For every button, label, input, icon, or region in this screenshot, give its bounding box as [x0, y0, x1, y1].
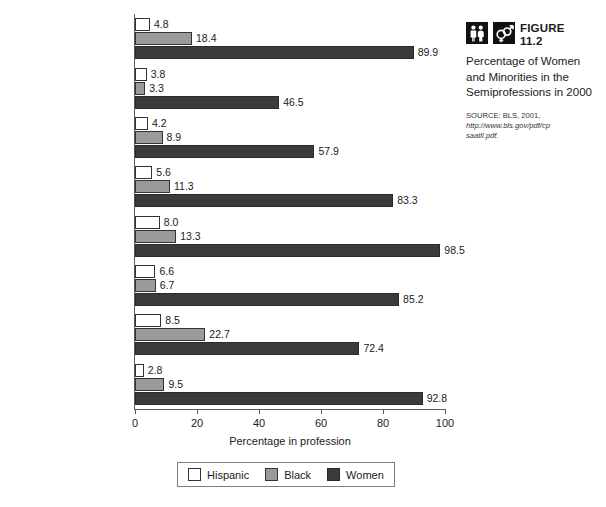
source-line-1: SOURCE: BLS, 2001,: [466, 111, 598, 121]
bar-row: 72.4: [135, 342, 445, 355]
bar-row: 2.8: [135, 364, 445, 377]
bar-black: [135, 32, 192, 45]
bar-row: 83.3: [135, 194, 445, 207]
bar-hispanic: [135, 314, 161, 327]
x-axis-title: Percentage in profession: [135, 435, 445, 447]
x-axis-tick: [321, 409, 322, 414]
bar-black: [135, 230, 176, 243]
bar-hispanic: [135, 166, 152, 179]
bar-hispanic: [135, 364, 144, 377]
x-axis-tick: [383, 409, 384, 414]
bar-row: 11.3: [135, 180, 445, 193]
bar-row: 57.9: [135, 145, 445, 158]
bar-row: 3.3: [135, 82, 445, 95]
x-axis-tick: [197, 409, 198, 414]
x-axis-tick-label: 20: [177, 416, 217, 430]
bar-value-label: 11.3: [174, 179, 194, 193]
bar-value-label: 8.9: [167, 130, 182, 144]
legend-swatch-hispanic: [188, 468, 201, 481]
bar-women: [135, 244, 440, 257]
bar-hispanic: [135, 117, 148, 130]
bar-value-label: 5.6: [156, 165, 171, 179]
bar-value-label: 22.7: [209, 327, 229, 341]
bar-women: [135, 293, 399, 306]
caption-header: FIGURE 11.2: [466, 22, 598, 47]
bar-black: [135, 279, 156, 292]
bar-value-label: 8.5: [165, 313, 180, 327]
bar-group: 2.89.592.8: [135, 364, 445, 406]
bar-women: [135, 194, 393, 207]
figure-number-block: FIGURE 11.2: [520, 22, 565, 47]
bar-black: [135, 180, 170, 193]
bar-hispanic: [135, 265, 155, 278]
bar-row: 6.6: [135, 265, 445, 278]
bar-value-label: 92.8: [427, 391, 447, 405]
bar-row: 4.2: [135, 117, 445, 130]
source-line-2: http://www.bls.gov/pdf/cp: [466, 121, 598, 131]
bar-value-label: 83.3: [397, 193, 417, 207]
bar-women: [135, 96, 279, 109]
legend-swatch-women: [327, 468, 340, 481]
gender-symbols-icon: [493, 22, 515, 44]
x-axis-line: [134, 409, 446, 410]
bar-women: [135, 46, 414, 59]
bar-value-label: 6.7: [160, 278, 175, 292]
bar-row: 8.5: [135, 314, 445, 327]
source-line-3: saatll.pdf.: [466, 131, 598, 141]
bar-value-label: 2.8: [148, 363, 163, 377]
bar-row: 98.5: [135, 244, 445, 257]
bar-women: [135, 342, 359, 355]
legend-item-black: Black: [265, 468, 311, 481]
bar-row: 89.9: [135, 46, 445, 59]
x-axis-tick: [135, 409, 136, 414]
two-people-icon: [466, 22, 488, 44]
bar-row: 3.8: [135, 68, 445, 81]
bar-row: 85.2: [135, 293, 445, 306]
bar-value-label: 3.8: [151, 67, 166, 81]
x-axis-tick-label: 0: [115, 416, 155, 430]
bar-group: 3.83.346.5: [135, 68, 445, 110]
bar-women: [135, 145, 314, 158]
figure-source: SOURCE: BLS, 2001, http://www.bls.gov/pd…: [466, 111, 598, 141]
bar-value-label: 13.3: [180, 229, 200, 243]
bar-group: 4.818.489.9: [135, 18, 445, 60]
bar-hispanic: [135, 68, 147, 81]
bar-value-label: 85.2: [403, 292, 423, 306]
x-axis-tick: [445, 409, 446, 414]
plot-area: 4.818.489.93.83.346.54.28.957.95.611.383…: [135, 14, 445, 409]
bar-row: 8.9: [135, 131, 445, 144]
bar-black: [135, 131, 163, 144]
bar-group: 4.28.957.9: [135, 117, 445, 159]
bar-group: 8.522.772.4: [135, 314, 445, 356]
bar-row: 6.7: [135, 279, 445, 292]
bar-row: 22.7: [135, 328, 445, 341]
bar-row: 13.3: [135, 230, 445, 243]
bar-value-label: 46.5: [283, 95, 303, 109]
bar-hispanic: [135, 216, 160, 229]
bar-value-label: 98.5: [444, 243, 464, 257]
bar-value-label: 4.2: [152, 116, 167, 130]
bar-value-label: 9.5: [168, 377, 183, 391]
bar-black: [135, 378, 164, 391]
bar-row: 9.5: [135, 378, 445, 391]
bar-row: 4.8: [135, 18, 445, 31]
bar-black: [135, 328, 205, 341]
bar-row: 92.8: [135, 392, 445, 405]
bar-value-label: 6.6: [159, 264, 174, 278]
x-axis-tick-label: 60: [301, 416, 341, 430]
bar-group: 6.66.785.2: [135, 265, 445, 307]
bar-value-label: 57.9: [318, 144, 338, 158]
bar-row: 8.0: [135, 216, 445, 229]
x-axis-tick-label: 100: [425, 416, 465, 430]
bar-value-label: 18.4: [196, 31, 216, 45]
legend-label-black: Black: [284, 469, 311, 481]
figure-number: 11.2: [520, 35, 543, 47]
bar-row: 46.5: [135, 96, 445, 109]
bar-value-label: 72.4: [363, 341, 383, 355]
legend-label-hispanic: Hispanic: [207, 469, 249, 481]
bar-group: 8.013.398.5: [135, 216, 445, 258]
chart-legend: Hispanic Black Women: [177, 462, 395, 487]
figure-word: FIGURE: [520, 22, 565, 34]
legend-label-women: Women: [346, 469, 384, 481]
x-axis-tick: [259, 409, 260, 414]
